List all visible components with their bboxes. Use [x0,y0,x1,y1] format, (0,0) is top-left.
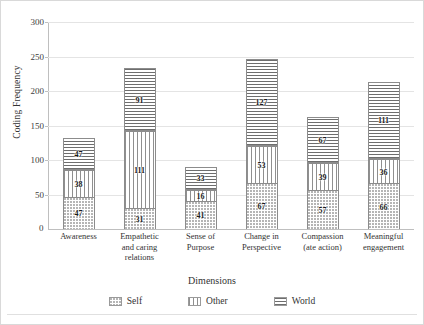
x-axis-label-3: Sense ofPurpose [170,231,231,252]
bar-segment[interactable]: 53 [246,146,278,183]
bar-segment-value: 47 [64,209,94,218]
bar-segment[interactable]: 111 [124,131,156,208]
y-axis-tick-zero: 0 [39,223,44,233]
x-axis-label-line: Purpose [170,242,231,253]
x-axis-label-4: Change inPerspective [231,231,292,252]
legend-label: Self [127,296,142,306]
bar-segment-value: 16 [186,191,216,200]
x-axis-label-line: and caring [109,242,170,253]
stacked-bar[interactable]: 9111131 [124,68,156,229]
bar-segment-value: 66 [369,202,399,211]
y-axis-tick-300: 300 [31,17,45,27]
bar-segment-value: 36 [369,167,399,176]
stacked-bar[interactable]: 331641 [185,167,217,229]
legend-item-self[interactable]: Self [109,296,142,306]
bar-segment[interactable]: 127 [246,59,278,147]
bar-segment[interactable]: 66 [368,183,400,229]
x-axis-label-line: Change in [231,231,292,242]
bar-segment[interactable]: 33 [185,167,217,190]
bar-group: 9111131 [109,22,170,229]
legend-swatch-icon [188,297,201,306]
legend-swatch-icon [274,297,287,306]
chart-figure: Coding Frequency 50100150200250300 47384… [0,0,424,325]
y-axis-tick-150: 150 [31,121,45,131]
bar-segment-value: 38 [64,179,94,188]
legend-label: Other [206,296,228,306]
bar-segment[interactable]: 31 [124,208,156,229]
bar-group: 1113666 [353,22,414,229]
x-axis-label-line: Empathetic [109,231,170,242]
bar-group: 331641 [170,22,231,229]
x-axis-label-line: Awareness [48,231,109,242]
legend-item-other[interactable]: Other [188,296,228,306]
legend-item-world[interactable]: World [274,296,316,306]
legend-swatch-icon [109,297,122,306]
y-axis-title: Coding Frequency [12,42,22,162]
bar-segment-value: 41 [186,211,216,220]
x-axis-label-line: engagement [353,242,414,253]
x-axis-label-line: Compassion [292,231,353,242]
bar-segment-value: 39 [308,172,338,181]
x-axis-label-line: relations [109,252,170,263]
stacked-bar[interactable]: 473847 [63,138,95,229]
x-axis-label-line: Meaningful [353,231,414,242]
chart-legend: SelfOtherWorld [1,296,423,306]
bar-segment-value: 111 [125,165,155,174]
bar-segment-value: 67 [247,202,277,211]
bar-series-container: 473847911113133164112753676739571113666 [48,22,414,229]
x-axis-label-line: Sense of [170,231,231,242]
bar-segment-value: 111 [369,116,399,125]
x-axis-label-2: Empatheticand caringrelations [109,231,170,263]
bar-segment[interactable]: 111 [368,82,400,159]
x-axis-title: Dimensions [1,275,423,286]
y-axis-tick-50: 50 [35,190,44,200]
bar-segment-value: 47 [64,150,94,159]
bar-segment-value: 57 [308,205,338,214]
x-axis-ticks: AwarenessEmpatheticand caringrelationsSe… [48,231,414,271]
bar-segment[interactable]: 91 [124,68,156,131]
bar-segment-value: 127 [247,98,277,107]
bar-group: 673957 [292,22,353,229]
bar-segment[interactable]: 41 [185,201,217,229]
y-axis-tick-250: 250 [31,52,45,62]
stacked-bar[interactable]: 1275367 [246,59,278,229]
plot-area: 50100150200250300 4738479111131331641127… [48,22,414,229]
bar-segment-value: 33 [186,174,216,183]
bar-segment[interactable]: 67 [307,117,339,163]
x-axis-label-6: Meaningfulengagement [353,231,414,252]
bar-group: 473847 [48,22,109,229]
bar-group: 1275367 [231,22,292,229]
y-axis-tick-100: 100 [31,155,45,165]
bar-segment[interactable]: 16 [185,190,217,201]
bar-segment-value: 53 [247,161,277,170]
legend-label: World [292,296,316,306]
bar-segment-value: 31 [125,214,155,223]
legend-separator [7,314,417,315]
x-axis-label-1: Awareness [48,231,109,242]
stacked-bar[interactable]: 673957 [307,117,339,229]
bar-segment[interactable]: 47 [63,197,95,229]
bar-segment-value: 91 [125,95,155,104]
bar-segment-value: 67 [308,135,338,144]
bar-segment[interactable]: 57 [307,190,339,229]
bar-segment[interactable]: 47 [63,138,95,170]
bar-segment[interactable]: 67 [246,183,278,229]
bar-segment[interactable]: 38 [63,170,95,196]
y-axis-tick-200: 200 [31,86,45,96]
bar-segment[interactable]: 39 [307,163,339,190]
x-axis-label-line: Perspective [231,242,292,253]
gridline-0 [48,229,414,230]
x-axis-label-line: (ate action) [292,242,353,253]
x-axis-label-5: Compassion(ate action) [292,231,353,252]
stacked-bar[interactable]: 1113666 [368,82,400,229]
bar-segment[interactable]: 36 [368,159,400,184]
